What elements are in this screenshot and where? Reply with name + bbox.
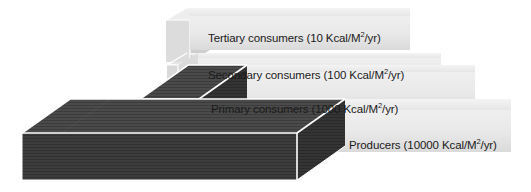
label-secondary-tail: /yr): [388, 69, 404, 81]
label-bar-secondary-top: [187, 53, 441, 58]
label-secondary-consumers: Secondary consumers (100 Kcal/M2/yr): [208, 70, 404, 82]
label-producers: Producers (10000 Kcal/M2/yr): [349, 140, 497, 152]
label-primary-text: Primary consumers (1000 Kcal/M: [211, 103, 378, 115]
label-tertiary-text: Tertiary consumers (10 Kcal/M: [208, 32, 360, 44]
energy-pyramid-diagram: Tertiary consumers (10 Kcal/M2/yr) Secon…: [0, 0, 531, 192]
label-tertiary-consumers: Tertiary consumers (10 Kcal/M2/yr): [208, 33, 381, 45]
tertiary-front-face: [166, 20, 190, 62]
label-secondary-text: Secondary consumers (100 Kcal/M: [208, 69, 384, 81]
pyramid-graphic: [0, 0, 531, 192]
label-primary-tail: /yr): [382, 103, 398, 115]
label-producers-tail: /yr): [481, 139, 497, 151]
label-tertiary-tail: /yr): [364, 32, 380, 44]
producers-front-face-overlay: [22, 133, 297, 180]
label-bar-tertiary-top: [186, 8, 410, 16]
label-producers-text: Producers (10000 Kcal/M: [349, 139, 476, 151]
label-primary-consumers: Primary consumers (1000 Kcal/M2/yr): [211, 104, 398, 116]
